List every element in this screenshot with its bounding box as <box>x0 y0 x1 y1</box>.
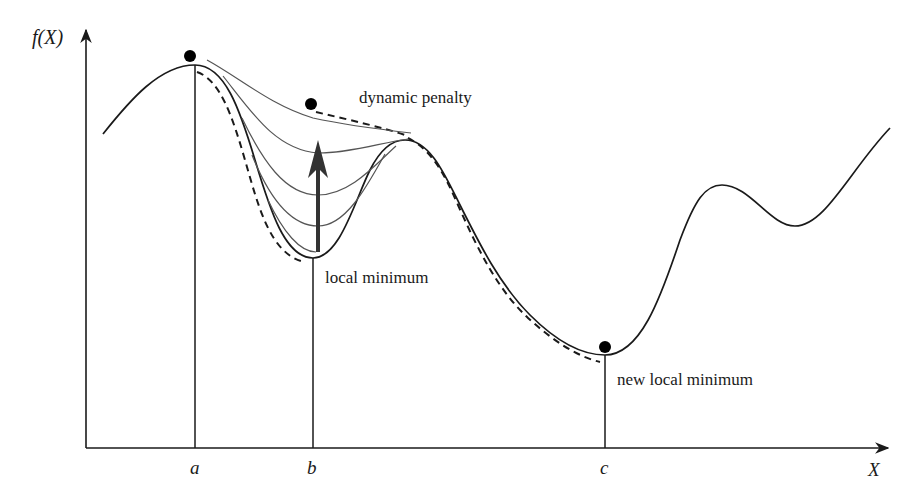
dynamic-penalty-diagram: f(X) X a b c dynamic penalty local minim… <box>0 0 915 501</box>
descent-trajectory-dashed <box>408 138 600 362</box>
penalty-curve-5 <box>268 200 316 252</box>
new-minimum-dot <box>599 341 611 353</box>
y-axis-label: f(X) <box>32 26 63 49</box>
objective-curve <box>103 65 890 355</box>
penalized-point-dot <box>305 98 317 110</box>
tick-label-b: b <box>307 457 317 478</box>
new-local-minimum-label: new local minimum <box>617 370 753 389</box>
search-trajectory-dashed <box>197 72 305 262</box>
start-point-dot <box>184 50 196 62</box>
tick-label-a: a <box>190 457 200 478</box>
dynamic-penalty-label: dynamic penalty <box>359 88 472 107</box>
penalty-increase-arrow-icon <box>308 140 328 252</box>
tick-label-c: c <box>600 457 609 478</box>
penalty-trajectory-dashed <box>316 112 408 136</box>
local-minimum-label: local minimum <box>325 268 428 287</box>
x-axis-label: X <box>867 459 881 480</box>
